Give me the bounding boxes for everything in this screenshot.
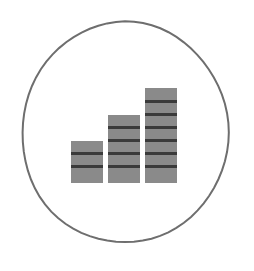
bar-2-divider-1 xyxy=(108,126,140,129)
bar-chart-in-circle-icon xyxy=(0,0,254,271)
bar-2-divider-4 xyxy=(108,165,140,168)
bar-1 xyxy=(71,141,103,183)
bar-2 xyxy=(108,115,140,183)
bar-body-1 xyxy=(71,141,103,183)
bar-body-2 xyxy=(108,115,140,183)
bar-3 xyxy=(145,88,177,183)
bar-3-divider-3 xyxy=(145,126,177,129)
bar-3-divider-5 xyxy=(145,152,177,155)
icon-canvas: Bar chart icon in circle Grey segmented … xyxy=(0,0,254,271)
bar-3-divider-6 xyxy=(145,165,177,168)
bar-3-divider-1 xyxy=(145,100,177,103)
bar-3-divider-2 xyxy=(145,113,177,116)
bar-2-divider-2 xyxy=(108,139,140,142)
bar-3-divider-4 xyxy=(145,139,177,142)
bar-2-divider-3 xyxy=(108,152,140,155)
bar-1-divider-2 xyxy=(71,165,103,168)
bar-1-divider-1 xyxy=(71,152,103,155)
